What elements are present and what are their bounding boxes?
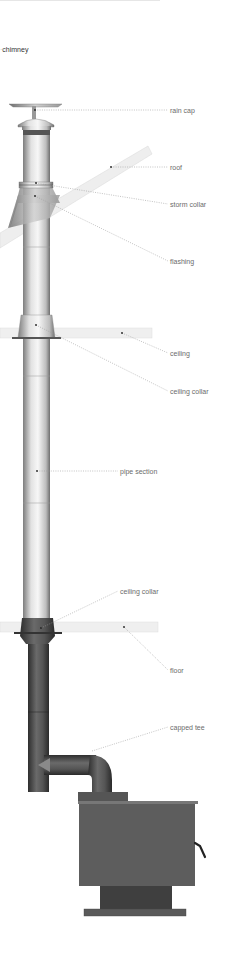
label-ceiling-collar-lower: ceiling collar [120, 587, 159, 596]
label-ceiling: ceiling [170, 349, 190, 358]
label-floor: floor [170, 666, 184, 675]
wood-stove [78, 792, 205, 916]
label-capped-tee: capped tee [170, 723, 205, 732]
label-rain-cap: rain cap [170, 106, 195, 115]
label-pipe-section: pipe section [120, 467, 157, 476]
rain-cap [9, 104, 62, 130]
label-flashing: flashing [170, 257, 194, 266]
label-storm-collar: storm collar [170, 200, 206, 209]
capped-tee [38, 755, 112, 798]
chimney-diagram [0, 0, 230, 965]
stove-handle-icon [195, 843, 205, 857]
label-ceiling-collar-upper: ceiling collar [170, 387, 209, 396]
ceiling-collar-upper [12, 315, 61, 339]
label-roof: roof [170, 163, 182, 172]
